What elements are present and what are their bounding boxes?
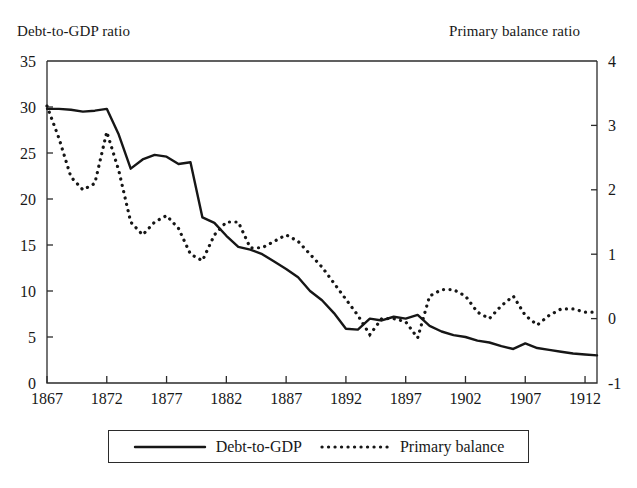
svg-text:15: 15 [20,237,36,254]
svg-text:1872: 1872 [91,390,123,407]
svg-text:10: 10 [20,283,36,300]
svg-text:1867: 1867 [31,390,63,407]
legend-swatch-dotted [319,441,391,453]
svg-text:4: 4 [608,53,616,70]
svg-text:0: 0 [28,375,36,392]
svg-text:-1: -1 [608,375,621,392]
svg-text:1892: 1892 [330,390,362,407]
svg-text:1: 1 [608,246,616,263]
chart-legend: Debt-to-GDP Primary balance [108,430,529,463]
svg-text:5: 5 [28,329,36,346]
legend-swatch-solid [133,441,207,453]
svg-text:25: 25 [20,145,36,162]
svg-text:1887: 1887 [270,390,302,407]
svg-text:1912: 1912 [569,390,601,407]
axis-frame [47,61,597,383]
svg-text:35: 35 [20,53,36,70]
svg-text:1897: 1897 [390,390,422,407]
legend-label-primary-balance: Primary balance [400,438,504,456]
svg-text:1882: 1882 [210,390,242,407]
plot-area: 05101520253035-1012341867187218771882188… [0,0,637,420]
legend-item-primary-balance: Primary balance [319,438,504,456]
svg-text:2: 2 [608,181,616,198]
legend-label-debt-to-gdp: Debt-to-GDP [216,438,302,456]
svg-text:0: 0 [608,310,616,327]
svg-text:30: 30 [20,99,36,116]
svg-text:1877: 1877 [151,390,183,407]
svg-text:1902: 1902 [449,390,481,407]
svg-text:20: 20 [20,191,36,208]
svg-text:1907: 1907 [509,390,541,407]
svg-text:3: 3 [608,117,616,134]
series-layer [47,106,597,355]
chart-figure: Debt-to-GDP ratio Primary balance ratio … [0,0,637,488]
tick-labels: 05101520253035-1012341867187218771882188… [20,53,621,408]
tick-marks [47,107,597,383]
legend-item-debt-to-gdp: Debt-to-GDP [133,438,302,456]
